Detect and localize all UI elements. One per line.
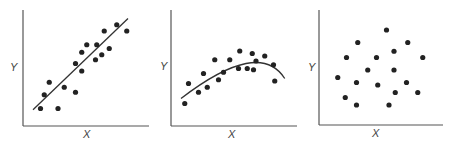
data-point xyxy=(205,85,210,90)
data-point xyxy=(221,70,226,75)
data-point xyxy=(386,102,391,107)
data-point xyxy=(212,57,217,62)
data-point xyxy=(391,67,396,72)
data-point xyxy=(384,27,389,32)
data-point xyxy=(415,90,420,95)
data-point xyxy=(79,68,84,73)
data-point xyxy=(102,28,107,33)
data-point xyxy=(344,55,349,60)
data-point xyxy=(271,62,276,67)
chart-panel-curvilinear: Y X xyxy=(150,0,300,146)
data-point xyxy=(84,42,89,47)
fit-line xyxy=(33,19,128,110)
data-point xyxy=(79,50,84,55)
y-axis-label: Y xyxy=(10,62,17,73)
data-point xyxy=(354,80,359,85)
data-point xyxy=(237,48,242,53)
x-axis-label: X xyxy=(228,129,235,140)
data-point xyxy=(420,55,425,60)
data-point xyxy=(405,40,410,45)
data-point xyxy=(73,90,78,95)
data-point xyxy=(335,75,340,80)
y-axis-label: Y xyxy=(160,61,167,72)
chart-panel-no-correlation: Y X xyxy=(300,0,450,146)
data-point xyxy=(99,52,104,57)
data-point xyxy=(216,77,221,82)
data-point xyxy=(375,82,380,87)
plot-area xyxy=(300,0,451,146)
y-axis-label: Y xyxy=(308,62,315,73)
data-point xyxy=(251,67,256,72)
data-point xyxy=(107,46,112,51)
data-point xyxy=(354,102,359,107)
data-point xyxy=(124,28,129,33)
chart-panel-linear: Y X xyxy=(0,0,150,146)
x-axis-label: X xyxy=(372,128,379,139)
data-point xyxy=(55,106,60,111)
data-point xyxy=(404,80,409,85)
data-point xyxy=(272,78,277,83)
data-point xyxy=(262,53,267,58)
plot-area xyxy=(0,0,150,146)
data-point xyxy=(94,42,99,47)
data-point xyxy=(62,85,67,90)
data-point xyxy=(355,40,360,45)
data-point xyxy=(393,90,398,95)
data-point xyxy=(236,66,241,71)
data-point xyxy=(38,106,43,111)
data-point xyxy=(227,57,232,62)
data-point xyxy=(201,71,206,76)
data-point xyxy=(253,58,258,63)
data-point xyxy=(250,51,255,56)
data-point xyxy=(42,92,47,97)
x-axis-label: X xyxy=(83,129,90,140)
data-point xyxy=(47,80,52,85)
data-point xyxy=(114,22,119,27)
data-point xyxy=(374,55,379,60)
data-point xyxy=(182,101,187,106)
data-point xyxy=(245,66,250,71)
data-point xyxy=(73,61,78,66)
data-point xyxy=(343,95,348,100)
plot-area xyxy=(150,0,300,146)
data-point xyxy=(196,90,201,95)
data-point xyxy=(391,49,396,54)
data-point xyxy=(186,81,191,86)
data-point xyxy=(93,57,98,62)
data-point xyxy=(365,67,370,72)
